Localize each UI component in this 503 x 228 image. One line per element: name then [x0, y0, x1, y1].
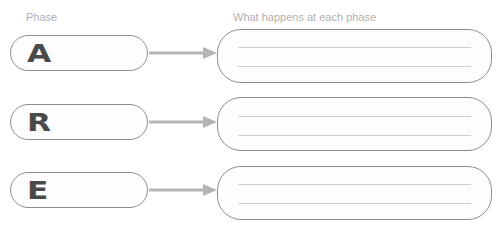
- answer-line[interactable]: [238, 135, 471, 136]
- phase-letter: E: [27, 176, 48, 205]
- phase-pill-e: E: [10, 172, 148, 208]
- phase-header: Phase: [26, 11, 57, 23]
- answer-line[interactable]: [238, 203, 471, 204]
- answer-line[interactable]: [238, 47, 471, 48]
- what-happens-header: What happens at each phase: [233, 11, 376, 23]
- answer-line[interactable]: [238, 116, 471, 117]
- answer-box-e[interactable]: [217, 166, 492, 220]
- arrow-right-icon: [149, 116, 217, 128]
- arrow-right-icon: [149, 47, 217, 59]
- answer-line[interactable]: [238, 184, 471, 185]
- answer-box-r[interactable]: [217, 97, 492, 151]
- phase-letter: R: [27, 108, 51, 137]
- answer-line[interactable]: [238, 66, 471, 67]
- phase-pill-r: R: [10, 104, 148, 140]
- arrow-right-icon: [149, 184, 217, 196]
- phase-letter: A: [27, 39, 51, 68]
- answer-box-a[interactable]: [217, 29, 492, 83]
- phase-pill-a: A: [10, 35, 148, 71]
